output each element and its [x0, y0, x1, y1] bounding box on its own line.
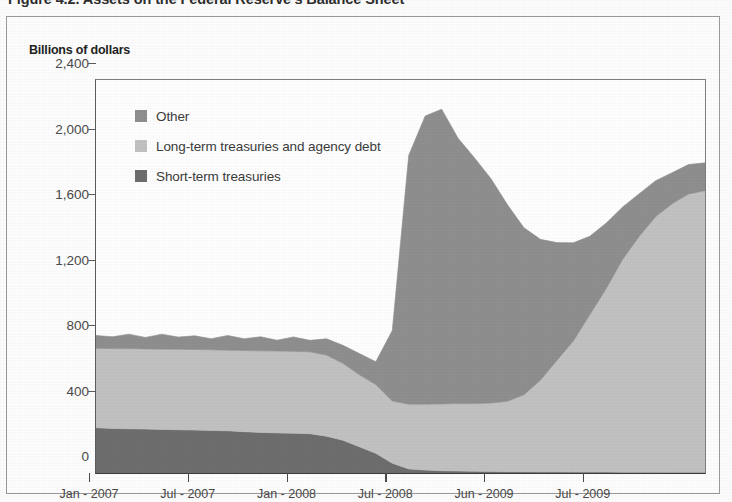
y-tick-label: 0: [17, 449, 89, 464]
legend-swatch-short-term: [135, 170, 147, 182]
y-tick-mark: [88, 129, 96, 130]
y-tick-label: 800: [17, 318, 89, 333]
chart-legend: OtherLong-term treasuries and agency deb…: [135, 101, 381, 191]
y-tick-mark: [88, 260, 96, 261]
y-tick-mark: [88, 63, 96, 64]
y-tick-label: 2,000: [17, 121, 89, 136]
legend-swatch-long-term: [135, 140, 147, 152]
legend-item: Short-term treasuries: [135, 161, 381, 191]
x-tick-label: Jul - 2007: [160, 487, 215, 501]
y-tick-mark: [88, 391, 96, 392]
y-tick-label: 1,600: [17, 187, 89, 202]
y-tick-mark: [88, 325, 96, 326]
x-tick-mark: [583, 473, 584, 482]
x-tick-mark: [484, 473, 485, 482]
chart-frame: Billions of dollars 04008001,2001,6002,0…: [6, 16, 720, 494]
x-tick-label: Jan - 2008: [257, 487, 316, 501]
y-tick-label: 1,200: [17, 252, 89, 267]
x-tick-mark: [188, 473, 189, 482]
x-tick-mark: [287, 473, 288, 482]
y-tick-label: 2,400: [17, 56, 89, 71]
y-axis-tick-group: 04008001,2001,6002,0002,400: [7, 17, 89, 502]
x-tick-label: Jul - 2009: [555, 487, 610, 501]
legend-label: Long-term treasuries and agency debt: [156, 139, 381, 154]
x-tick-label: Jun - 2009: [454, 487, 513, 501]
legend-label: Other: [156, 109, 189, 124]
x-tick-mark: [385, 473, 386, 482]
figure-container: Figure 4.2. Assets on the Federal Reserv…: [0, 0, 732, 502]
legend-item: Other: [135, 101, 381, 131]
x-tick-mark: [89, 473, 90, 482]
legend-item: Long-term treasuries and agency debt: [135, 131, 381, 161]
x-tick-label: Jul - 2008: [358, 487, 413, 501]
y-tick-mark: [88, 194, 96, 195]
legend-label: Short-term treasuries: [156, 169, 281, 184]
legend-swatch-other: [135, 110, 147, 122]
y-tick-label: 400: [17, 383, 89, 398]
x-tick-label: Jan - 2007: [59, 487, 118, 501]
figure-title: Figure 4.2. Assets on the Federal Reserv…: [8, 0, 708, 11]
